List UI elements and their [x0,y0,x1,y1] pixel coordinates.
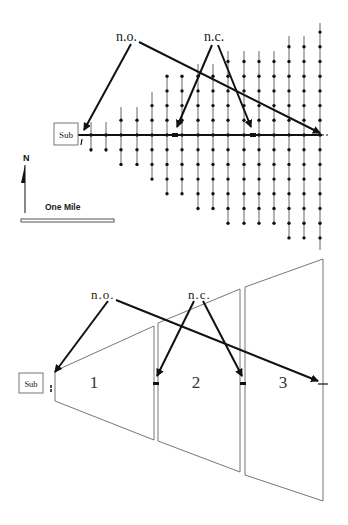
no-label-bottom: n.o. [91,287,115,302]
load-point [272,89,275,92]
load-point [287,163,290,166]
top-feeder-map: Sub n.o. n.c. N One Mile [21,23,328,250]
load-point [150,177,153,180]
load-point [196,192,199,195]
substation-box: Sub [54,123,78,145]
load-point [318,89,321,92]
lateral-column [211,64,214,210]
substation-label: Sub [59,130,74,140]
lateral-column [89,122,92,152]
load-point [318,60,321,63]
load-point [257,75,260,78]
load-point [180,89,183,92]
nc-switch-1 [172,133,178,137]
load-point [318,236,321,239]
load-point [302,119,305,122]
load-point [226,60,229,63]
load-point [119,163,122,166]
load-point [165,75,168,78]
load-point [318,222,321,225]
load-point [287,236,290,239]
load-point [211,119,214,122]
load-point [302,45,305,48]
load-point [242,60,245,63]
load-point [257,222,260,225]
load-point [211,192,214,195]
load-point [180,192,183,195]
load-point [287,148,290,151]
load-point [318,148,321,151]
load-point [119,119,122,122]
scale-label: One Mile [45,202,81,212]
load-point [165,192,168,195]
load-point [287,222,290,225]
no-label: n.o. [116,29,137,44]
load-point [272,119,275,122]
lateral-column [302,36,305,240]
load-point [196,119,199,122]
load-point [165,104,168,107]
load-point [257,104,260,107]
load-point [150,119,153,122]
load-point [242,148,245,151]
nc-switch-bottom-1 [153,382,159,385]
load-point [287,45,290,48]
load-point [287,192,290,195]
load-point [211,75,214,78]
load-point [196,104,199,107]
load-point [242,207,245,210]
zone-3-label: 3 [279,373,288,392]
load-point [135,163,138,166]
load-point [196,89,199,92]
load-point [302,177,305,180]
load-point [242,119,245,122]
lateral-column [318,23,321,250]
feeder-diagram: Sub n.o. n.c. N One Mile 1 2 3 [0,0,348,525]
lateral-column [104,122,107,152]
load-point [287,104,290,107]
load-point [89,148,92,151]
load-point [242,75,245,78]
load-point [257,163,260,166]
load-point [135,119,138,122]
load-point [180,104,183,107]
load-point [211,177,214,180]
load-point [165,163,168,166]
load-point [318,104,321,107]
bottom-zone-diagram: 1 2 3 Sub n.o. n.c. [19,259,328,501]
load-point [211,89,214,92]
load-point [318,30,321,33]
load-point [211,104,214,107]
load-point [165,177,168,180]
load-point [196,148,199,151]
load-point [272,192,275,195]
load-point [226,177,229,180]
load-point [180,177,183,180]
load-point [242,192,245,195]
load-point [318,45,321,48]
load-point [272,222,275,225]
load-point [165,119,168,122]
load-point [257,89,260,92]
load-point [257,192,260,195]
scale-bar [21,219,114,222]
load-point [242,177,245,180]
load-point [302,207,305,210]
load-point [196,177,199,180]
load-point [257,177,260,180]
load-point [211,163,214,166]
load-point [287,60,290,63]
load-point [257,119,260,122]
load-point [242,89,245,92]
zone-2-label: 2 [192,373,201,392]
load-point [302,60,305,63]
load-point [226,119,229,122]
load-point [272,148,275,151]
load-point [226,222,229,225]
load-point [302,148,305,151]
load-point [302,104,305,107]
load-point [242,163,245,166]
lateral-column [150,92,153,181]
load-point [318,207,321,210]
load-point [196,163,199,166]
